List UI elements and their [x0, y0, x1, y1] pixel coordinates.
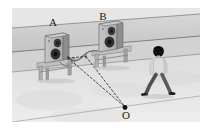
speaker-a-shadow [37, 78, 75, 83]
speaker-b-port [102, 28, 104, 30]
speaker-a-leg-3 [46, 68, 49, 80]
scene [8, 8, 202, 124]
speaker-a-side-face [63, 33, 69, 60]
speaker-b-side-face [117, 21, 123, 49]
person-shadow [142, 94, 174, 99]
physics-diagram-svg: A B O [0, 0, 212, 132]
person-shoe-front [168, 92, 175, 95]
speaker-a-port [48, 40, 50, 42]
figure-container: A B O [0, 0, 212, 132]
speaker-b-shadow [92, 66, 130, 71]
speaker-a-tweeter-dome [56, 41, 59, 45]
label-point-o: O [122, 109, 130, 121]
speaker-b-woofer-dome [108, 40, 112, 45]
label-speaker-a: A [49, 16, 57, 28]
speaker-b-leg-1 [95, 54, 98, 67]
speaker-a-leg-1 [39, 66, 42, 80]
speaker-a-woofer-dome [54, 52, 58, 57]
label-speaker-b: B [99, 10, 106, 22]
speaker-b-tweeter-dome [110, 29, 113, 33]
speaker-b-leg-3 [103, 56, 106, 67]
